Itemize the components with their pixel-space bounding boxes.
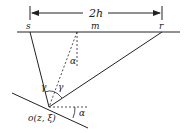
reflection-point-label: o(z, ξ) (28, 113, 56, 123)
dip-angle-bottom-label: α (79, 108, 85, 118)
receiver-label: r (159, 21, 164, 31)
midpoint-label: m (91, 21, 100, 31)
normal-dashed-line (49, 32, 77, 107)
reflected-ray (49, 32, 162, 107)
reflection-geometry-diagram: 2h s m r α α γ γ o(z, ξ) (0, 0, 189, 133)
offset-label: 2h (88, 7, 103, 20)
dip-angle-arc (73, 107, 75, 118)
incidence-angle-right-label: γ (58, 82, 64, 92)
incident-ray (30, 32, 49, 107)
incidence-angle-left-label: γ (41, 82, 47, 92)
source-label: s (26, 21, 31, 31)
dip-angle-top-label: α (70, 56, 76, 66)
